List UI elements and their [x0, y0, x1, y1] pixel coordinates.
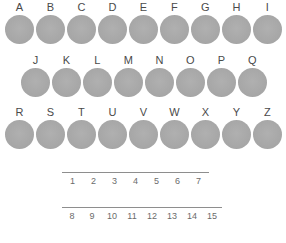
- letter-token-circle[interactable]: [145, 68, 174, 97]
- answer-blank-number: 2: [91, 176, 96, 186]
- letter-label: J: [33, 54, 39, 66]
- letter-token-circle[interactable]: [160, 120, 189, 149]
- letter-cell[interactable]: R: [4, 106, 35, 149]
- letter-label: A: [16, 1, 24, 13]
- letter-cell[interactable]: X: [190, 106, 221, 149]
- letter-cell[interactable]: A: [4, 1, 35, 44]
- answer-blank-line[interactable]: [182, 207, 202, 208]
- answer-blank-line[interactable]: [83, 172, 104, 173]
- letter-token-circle[interactable]: [21, 68, 50, 97]
- answer-blank-cell[interactable]: 14: [182, 207, 202, 221]
- answer-blank-line[interactable]: [82, 207, 102, 208]
- answer-blank-cell[interactable]: 1: [62, 172, 83, 186]
- letter-token-circle[interactable]: [238, 68, 267, 97]
- letter-token-circle[interactable]: [222, 15, 251, 44]
- letter-circle-row-2: J K L M N O P Q: [20, 54, 268, 97]
- letter-cell[interactable]: F: [159, 1, 190, 44]
- letter-token-circle[interactable]: [114, 68, 143, 97]
- letter-token-circle[interactable]: [5, 15, 34, 44]
- answer-blank-cell[interactable]: 2: [83, 172, 104, 186]
- answer-blank-number: 6: [175, 176, 180, 186]
- letter-token-circle[interactable]: [176, 68, 205, 97]
- letter-cell[interactable]: U: [97, 106, 128, 149]
- answer-blank-line[interactable]: [188, 172, 209, 173]
- letter-token-circle[interactable]: [253, 120, 282, 149]
- answer-blank-cell[interactable]: 7: [188, 172, 209, 186]
- letter-cell[interactable]: K: [51, 54, 82, 97]
- answer-blank-line[interactable]: [167, 172, 188, 173]
- letter-label: C: [77, 1, 85, 13]
- letter-token-circle[interactable]: [83, 68, 112, 97]
- letter-token-circle[interactable]: [191, 15, 220, 44]
- letter-cell[interactable]: S: [35, 106, 66, 149]
- letter-token-circle[interactable]: [67, 15, 96, 44]
- answer-blank-line[interactable]: [142, 207, 162, 208]
- answer-blank-cell[interactable]: 8: [62, 207, 82, 221]
- letter-token-circle[interactable]: [160, 15, 189, 44]
- letter-cell[interactable]: T: [66, 106, 97, 149]
- letter-cell[interactable]: H: [221, 1, 252, 44]
- answer-blank-cell[interactable]: 6: [167, 172, 188, 186]
- letter-token-circle[interactable]: [129, 120, 158, 149]
- letter-label: Q: [248, 54, 257, 66]
- answer-blank-line[interactable]: [202, 207, 222, 208]
- answer-blank-line[interactable]: [125, 172, 146, 173]
- letter-cell[interactable]: P: [206, 54, 237, 97]
- letter-cell[interactable]: N: [144, 54, 175, 97]
- answer-blank-cell[interactable]: 10: [102, 207, 122, 221]
- answer-blank-cell[interactable]: 3: [104, 172, 125, 186]
- letter-token-circle[interactable]: [36, 15, 65, 44]
- answer-blank-line[interactable]: [102, 207, 122, 208]
- answer-blank-line[interactable]: [104, 172, 125, 173]
- answer-blank-number: 11: [127, 211, 136, 221]
- letter-token-circle[interactable]: [36, 120, 65, 149]
- letter-cell[interactable]: I: [252, 1, 283, 44]
- answer-blank-line[interactable]: [62, 172, 83, 173]
- letter-token-circle[interactable]: [129, 15, 158, 44]
- answer-blank-cell[interactable]: 13: [162, 207, 182, 221]
- answer-blank-cell[interactable]: 11: [122, 207, 142, 221]
- letter-cell[interactable]: J: [20, 54, 51, 97]
- letter-cell[interactable]: W: [159, 106, 190, 149]
- answer-blank-number: 1: [70, 176, 75, 186]
- letter-cell[interactable]: E: [128, 1, 159, 44]
- answer-blank-cell[interactable]: 5: [146, 172, 167, 186]
- letter-cell[interactable]: O: [175, 54, 206, 97]
- answer-blank-number: 8: [69, 211, 74, 221]
- letter-label: S: [47, 106, 55, 118]
- letter-token-circle[interactable]: [191, 120, 220, 149]
- answer-blank-number: 5: [154, 176, 159, 186]
- letter-cell[interactable]: C: [66, 1, 97, 44]
- letter-cell[interactable]: Q: [237, 54, 268, 97]
- letter-cell[interactable]: D: [97, 1, 128, 44]
- answer-blank-cell[interactable]: 4: [125, 172, 146, 186]
- answer-blank-number: 14: [187, 211, 197, 221]
- letter-cell[interactable]: B: [35, 1, 66, 44]
- letter-token-circle[interactable]: [98, 120, 127, 149]
- letter-token-circle[interactable]: [222, 120, 251, 149]
- letter-token-circle[interactable]: [253, 15, 282, 44]
- answer-blank-line[interactable]: [122, 207, 142, 208]
- letter-token-circle[interactable]: [207, 68, 236, 97]
- answer-blank-cell[interactable]: 9: [82, 207, 102, 221]
- letter-cell[interactable]: L: [82, 54, 113, 97]
- letter-label: H: [232, 1, 240, 13]
- letter-label: K: [63, 54, 71, 66]
- letter-token-circle[interactable]: [67, 120, 96, 149]
- letter-circle-row-1: A B C D E F G H: [4, 1, 283, 44]
- letter-cell[interactable]: Y: [221, 106, 252, 149]
- letter-token-circle[interactable]: [98, 15, 127, 44]
- answer-blank-cell[interactable]: 15: [202, 207, 222, 221]
- answer-blank-line[interactable]: [62, 207, 82, 208]
- letter-token-circle[interactable]: [5, 120, 34, 149]
- letter-cell[interactable]: V: [128, 106, 159, 149]
- answer-blank-cell[interactable]: 12: [142, 207, 162, 221]
- answer-blank-line[interactable]: [162, 207, 182, 208]
- letter-cell[interactable]: M: [113, 54, 144, 97]
- letter-circle-row-3: R S T U V W X Y: [4, 106, 283, 149]
- letter-token-circle[interactable]: [52, 68, 81, 97]
- answer-blank-line[interactable]: [146, 172, 167, 173]
- letter-cell[interactable]: G: [190, 1, 221, 44]
- letter-label: N: [155, 54, 163, 66]
- letter-cell[interactable]: Z: [252, 106, 283, 149]
